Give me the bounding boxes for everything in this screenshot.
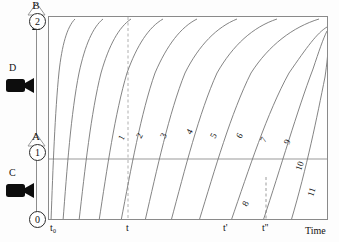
curves-canvas: 1234567891011 xyxy=(49,17,327,219)
video-camera-icon-C xyxy=(6,181,36,203)
curve-10 xyxy=(263,31,327,219)
curve-number-10: 10 xyxy=(293,159,305,171)
state-axis-column: B 2 A 1 0 D C xyxy=(0,0,46,242)
xtick-t0: t₀ xyxy=(50,222,56,233)
state-node-2-label: 2 xyxy=(35,17,40,27)
state-node-2: 2 xyxy=(29,13,46,30)
curve-number-1: 1 xyxy=(116,133,127,142)
xtick-t: t xyxy=(126,222,129,233)
camera-C-label: C xyxy=(9,167,16,178)
camera-D-label: D xyxy=(9,62,16,73)
curve-number-9: 9 xyxy=(282,137,293,145)
state-node-1: 1 xyxy=(29,144,46,161)
curve-number-8: 8 xyxy=(240,199,251,208)
curve-number-4: 4 xyxy=(184,127,195,136)
curve-3 xyxy=(79,19,131,219)
transition-B-label: B xyxy=(28,0,44,11)
xtick-t-double-prime: t'' xyxy=(262,222,268,233)
curve-7 xyxy=(171,19,277,219)
curve-number-3: 3 xyxy=(158,131,169,140)
curve-1 xyxy=(51,19,75,219)
transition-A-label: A xyxy=(28,130,44,142)
state-axis-line xyxy=(36,22,37,218)
curve-number-2: 2 xyxy=(134,131,145,140)
state-node-0: 0 xyxy=(29,211,46,228)
curve-5 xyxy=(121,19,197,219)
curve-8 xyxy=(199,19,319,219)
figure-root: B 2 A 1 0 D C xyxy=(0,0,339,242)
xtick-t-prime: t' xyxy=(223,222,228,233)
curve-number-6: 6 xyxy=(234,131,245,140)
curve-number-5: 5 xyxy=(208,131,219,140)
state-node-0-label: 0 xyxy=(35,215,40,225)
curve-6 xyxy=(145,19,237,219)
curve-4 xyxy=(99,19,163,219)
curve-number-labels: 1234567891011 xyxy=(116,127,318,208)
video-camera-icon-D xyxy=(6,76,36,98)
x-axis-title: Time xyxy=(305,225,326,236)
curve-number-7: 7 xyxy=(258,135,269,144)
curve-number-11: 11 xyxy=(305,186,317,197)
transition-curves xyxy=(51,19,327,219)
plot-area: 1234567891011 xyxy=(48,16,328,220)
state-node-1-label: 1 xyxy=(35,148,40,158)
